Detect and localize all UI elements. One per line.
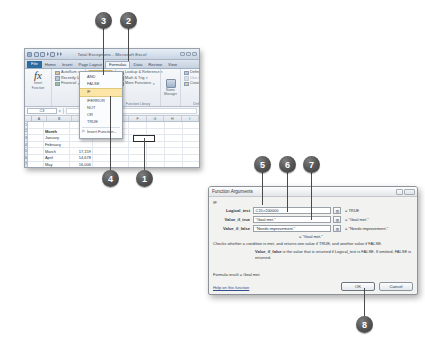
- tab-page-layout[interactable]: Page Layout: [75, 62, 105, 68]
- chevron-down-icon[interactable]: ▾: [146, 77, 148, 80]
- column-header-i[interactable]: I: [182, 116, 199, 121]
- close-button[interactable]: [192, 52, 197, 56]
- chevron-down-icon[interactable]: ▾: [153, 83, 155, 86]
- cell-b3[interactable]: January: [44, 135, 70, 141]
- cell-i2[interactable]: [183, 129, 200, 135]
- cell-f1[interactable]: [129, 122, 147, 128]
- cell-i7[interactable]: [183, 162, 200, 168]
- value-if-true-input[interactable]: "Goal met.": [253, 216, 331, 223]
- close-icon[interactable]: [404, 189, 415, 195]
- menu-item-insert-function[interactable]: fx Insert Function...: [80, 129, 122, 136]
- cell-e4[interactable]: [111, 142, 129, 148]
- cell-d6[interactable]: [93, 155, 111, 161]
- cell-b1[interactable]: [44, 122, 70, 128]
- cell-g6[interactable]: [147, 155, 165, 161]
- cell-b4[interactable]: February: [44, 142, 70, 148]
- cell-a7[interactable]: [28, 162, 44, 168]
- tab-view[interactable]: View: [165, 62, 180, 68]
- cell-g4[interactable]: [147, 142, 165, 148]
- cell-c7[interactable]: 16,006: [70, 162, 93, 168]
- cell-e5[interactable]: [111, 148, 129, 154]
- row-header-7[interactable]: 7: [25, 162, 27, 168]
- row-header-3[interactable]: 3: [25, 135, 27, 142]
- column-header-b[interactable]: B: [47, 116, 72, 121]
- cell-g1[interactable]: [147, 122, 165, 128]
- table-row[interactable]: February: [28, 142, 200, 149]
- cell-g7[interactable]: [147, 162, 165, 168]
- tab-formulas[interactable]: Formulas: [105, 61, 130, 68]
- menu-item-false[interactable]: FALSE: [80, 81, 122, 88]
- menu-item-or[interactable]: OR: [80, 111, 122, 118]
- cell-g2[interactable]: [147, 129, 165, 135]
- more-functions-button[interactable]: More Functions ▾: [118, 81, 158, 87]
- cell-g5[interactable]: [147, 148, 165, 154]
- cell-a2[interactable]: [28, 129, 44, 135]
- restore-icon[interactable]: [396, 189, 403, 195]
- cell-a3[interactable]: [28, 135, 44, 141]
- menu-item-not[interactable]: NOT: [80, 104, 122, 111]
- column-header-h[interactable]: H: [164, 116, 181, 121]
- cell-h6[interactable]: [165, 155, 183, 161]
- column-header-g[interactable]: G: [147, 116, 164, 121]
- cell-d5[interactable]: [93, 148, 111, 154]
- cell-h2[interactable]: [165, 129, 183, 135]
- column-header-f[interactable]: F: [129, 116, 146, 121]
- row-header-4[interactable]: 4: [25, 142, 27, 149]
- cell-i4[interactable]: [183, 142, 200, 148]
- cell-i1[interactable]: [183, 122, 200, 128]
- menu-item-true[interactable]: TRUE: [80, 119, 122, 126]
- table-row[interactable]: April 14,678: [28, 155, 200, 162]
- collapse-dialog-icon[interactable]: ▨: [333, 216, 341, 223]
- tab-file[interactable]: File: [27, 61, 42, 68]
- name-box-dropdown-icon[interactable]: ▾: [59, 109, 61, 113]
- row-header-1[interactable]: 1: [25, 122, 27, 129]
- dialog-window-controls[interactable]: [396, 189, 416, 195]
- cell-h4[interactable]: [165, 142, 183, 148]
- cell-a5[interactable]: [28, 148, 44, 154]
- cell-h3[interactable]: [165, 135, 183, 141]
- row-header-5[interactable]: 5: [25, 148, 27, 155]
- name-box[interactable]: C3: [27, 108, 57, 115]
- menu-item-and[interactable]: AND: [80, 74, 122, 81]
- select-all-corner[interactable]: [25, 116, 32, 121]
- cell-b5[interactable]: March: [44, 148, 70, 154]
- tab-review[interactable]: Review: [145, 62, 165, 68]
- collapse-dialog-icon[interactable]: ▨: [333, 225, 341, 232]
- menu-item-iferror[interactable]: IFERROR: [80, 97, 122, 104]
- tab-home[interactable]: Home: [42, 62, 59, 68]
- cell-h5[interactable]: [165, 148, 183, 154]
- cell-b7[interactable]: May: [44, 162, 70, 168]
- cell-h7[interactable]: [165, 162, 183, 168]
- cell-i3[interactable]: [183, 135, 200, 141]
- logical-dropdown-menu[interactable]: AND FALSE IF IFERROR NOT OR TRUE fx Inse…: [79, 71, 123, 139]
- cell-a1[interactable]: [28, 122, 44, 128]
- cell-c6[interactable]: 14,678: [70, 155, 93, 161]
- cell-e7[interactable]: [111, 162, 129, 168]
- cell-i6[interactable]: [183, 155, 200, 161]
- tab-insert[interactable]: Insert: [59, 62, 75, 68]
- cell-c4[interactable]: [70, 142, 93, 148]
- table-row[interactable]: March 17,159: [28, 148, 200, 155]
- column-header-a[interactable]: A: [32, 116, 47, 121]
- row-header-6[interactable]: 6: [25, 155, 27, 162]
- cell-d4[interactable]: [93, 142, 111, 148]
- table-row[interactable]: May 16,006: [28, 162, 200, 168]
- help-on-this-function-link[interactable]: Help on this function: [213, 285, 249, 290]
- cell-i5[interactable]: [183, 148, 200, 154]
- window-controls[interactable]: [180, 52, 197, 56]
- logical-test-input[interactable]: C15>200000: [253, 207, 331, 214]
- cell-e6[interactable]: [111, 155, 129, 161]
- cell-a6[interactable]: [28, 155, 44, 161]
- collapse-dialog-icon[interactable]: ▨: [333, 207, 341, 214]
- value-if-false-input[interactable]: "Needs improvement.": [253, 225, 331, 232]
- minimize-button[interactable]: [180, 52, 185, 56]
- cell-f2[interactable]: [129, 129, 147, 135]
- row-header-2[interactable]: 2: [25, 129, 27, 136]
- cancel-button[interactable]: Cancel: [379, 282, 413, 291]
- maximize-button[interactable]: [186, 52, 191, 56]
- tab-data[interactable]: Data: [130, 62, 145, 68]
- cell-b6[interactable]: April: [44, 155, 70, 161]
- use-in-formula-button[interactable]: Use in Formula ▾: [183, 76, 200, 82]
- ok-button[interactable]: OK: [341, 282, 375, 291]
- menu-item-if[interactable]: IF: [80, 88, 122, 97]
